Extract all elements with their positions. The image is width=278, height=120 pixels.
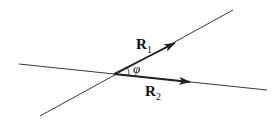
vector-diagram: φ R 1 R 2 <box>0 0 278 120</box>
r1-subscript: 1 <box>147 44 152 55</box>
angle-arc <box>127 67 129 76</box>
r2-subscript: 2 <box>156 91 161 102</box>
vector-r2-arrow <box>114 74 190 82</box>
angle-label: φ <box>133 61 140 76</box>
r1-label: R <box>136 36 147 52</box>
r2-label: R <box>145 83 156 99</box>
